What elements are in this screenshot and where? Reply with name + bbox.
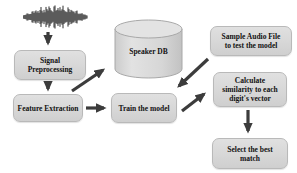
node-feature-extraction: Feature Extraction bbox=[13, 94, 83, 122]
node-select-best-match: Select the best match bbox=[212, 138, 288, 169]
node-train-model: Train the model bbox=[111, 93, 177, 123]
node-signal-preprocessing: Signal Preprocessing bbox=[14, 50, 86, 80]
node-sample-audio-file: Sample Audio File to test the model bbox=[210, 26, 292, 56]
speaker-db-label: Speaker DB bbox=[115, 46, 182, 57]
arrow-sample-audio-to-train-model bbox=[179, 59, 208, 86]
arrow-train-model-to-calculate-similarity bbox=[182, 94, 204, 111]
diagram-canvas: Signal Preprocessing Feature Extraction … bbox=[0, 0, 297, 173]
node-calculate-similarity: Calculate similarity to each digit's vec… bbox=[213, 72, 287, 107]
